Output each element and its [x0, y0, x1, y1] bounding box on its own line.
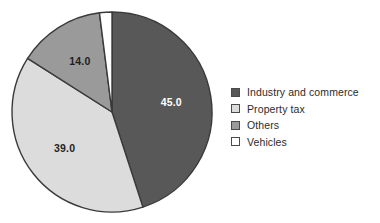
legend-item[interactable]: Industry and commerce	[231, 84, 379, 101]
legend-swatch-icon	[231, 121, 240, 130]
chart-legend: Industry and commerceProperty taxOthersV…	[231, 84, 379, 150]
legend-item-label: Others	[247, 119, 279, 131]
pie-chart-figure: 45.039.014.0 Industry and commerceProper…	[0, 0, 380, 223]
legend-item-label: Vehicles	[247, 136, 287, 148]
legend-item[interactable]: Vehicles	[231, 134, 379, 151]
legend-swatch-icon	[231, 88, 240, 97]
legend-swatch-icon	[231, 137, 240, 146]
legend-item-label: Industry and commerce	[247, 86, 359, 98]
legend-item-label: Property tax	[247, 103, 305, 115]
pie-slice-value-label: 14.0	[69, 55, 90, 67]
legend-item[interactable]: Others	[231, 117, 379, 134]
pie-slice-value-label: 39.0	[54, 142, 75, 154]
pie-slice-value-label: 45.0	[161, 96, 182, 108]
legend-swatch-icon	[231, 104, 240, 113]
pie-slices-group	[12, 12, 212, 212]
legend-item[interactable]: Property tax	[231, 101, 379, 118]
